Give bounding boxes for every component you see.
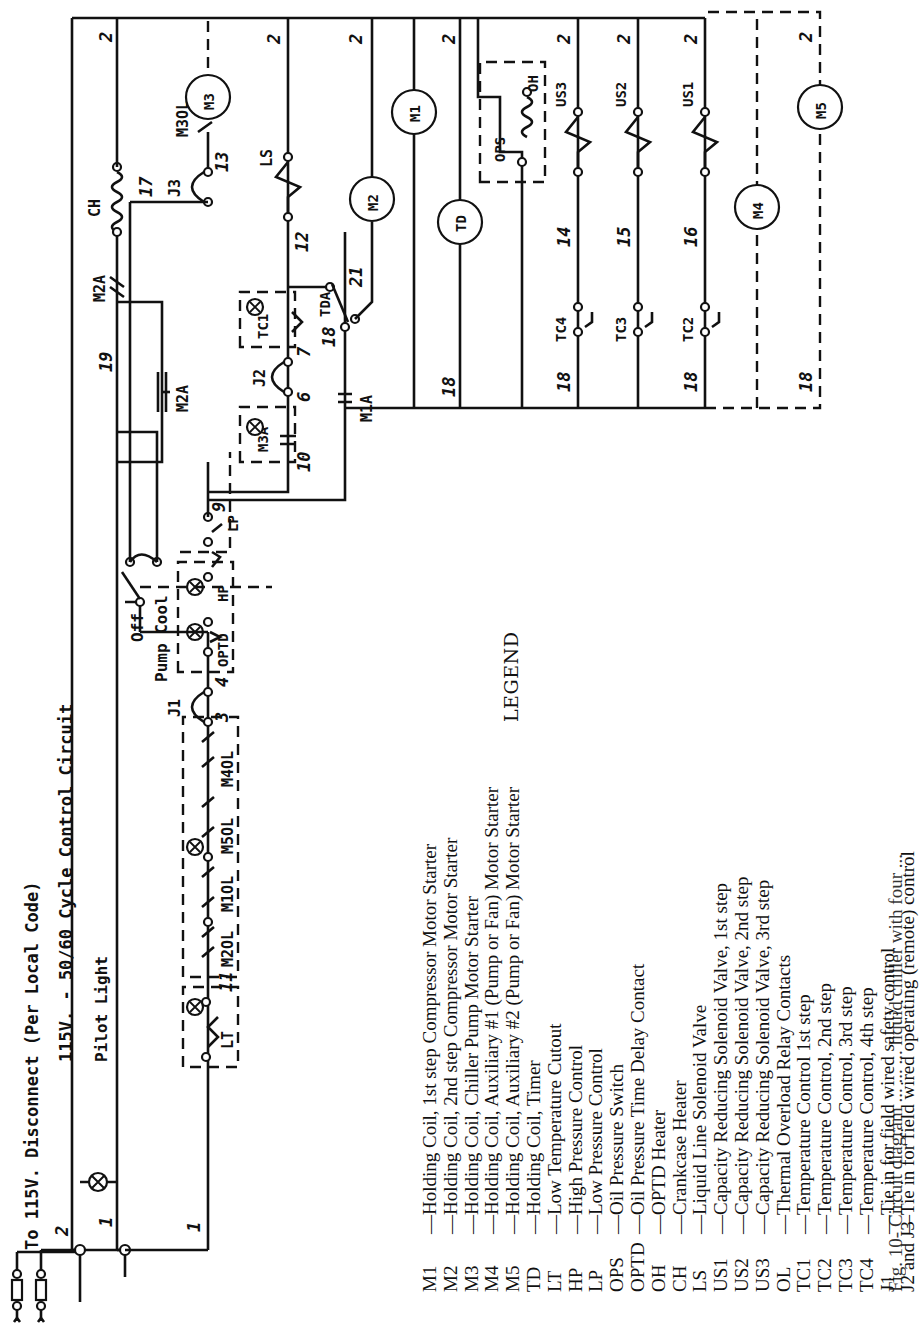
wire-number: 2 — [346, 34, 366, 45]
label-TDA: TDA — [317, 291, 333, 317]
legend-code: TC2 — [815, 1234, 836, 1292]
legend-item: LT—Low Temperature Cutout — [545, 592, 566, 1292]
wire-number: 16 — [681, 227, 701, 247]
label-M5: M5 — [813, 102, 829, 119]
label-LP: LP — [225, 515, 241, 532]
legend-description: —Temperature Control, 4th step — [857, 987, 878, 1234]
label-M2: M2 — [365, 194, 381, 211]
wire-number: 2 — [96, 32, 116, 43]
legend-code: OPS — [607, 1234, 628, 1292]
wire-number: 1 — [96, 1217, 116, 1227]
wire-number: 17 — [136, 176, 156, 197]
legend-description: —Temperature Control 1st step — [794, 994, 815, 1234]
label-J1: J1 — [166, 699, 184, 717]
legend-code: HP — [566, 1234, 587, 1292]
legend-description: —Holding Coil, 2nd step Compressor Motor… — [441, 838, 462, 1234]
label-OH: OH — [525, 75, 541, 92]
wire-number: 2 — [796, 32, 816, 43]
label-M2OL: M2OL — [219, 931, 237, 967]
legend-code: LS — [690, 1234, 711, 1292]
legend-item: US2—Capacity Reducing Solenoid Valve, 2n… — [732, 592, 753, 1292]
legend-description: —Holding Coil, Chiller Pump Motor Starte… — [462, 896, 483, 1234]
wire-number: 14 — [554, 227, 574, 247]
legend-description: —Holding Coil, Auxiliary #1 (Pump or Fan… — [482, 787, 503, 1234]
legend-code: US1 — [711, 1234, 732, 1292]
legend-description: —Liquid Line Solenoid Valve — [690, 1005, 711, 1234]
wire-number: 15 — [614, 227, 634, 247]
label-M3: M3 — [201, 93, 217, 110]
wire-number: 7 — [294, 346, 314, 357]
jumper-J3 — [192, 168, 212, 206]
wire-number: 18 — [319, 327, 339, 347]
legend-description: —Crankcase Heater — [670, 1080, 691, 1234]
legend-description: —Capacity Reducing Solenoid Valve, 2nd s… — [732, 877, 753, 1234]
legend-item: OPS—Oil Pressure Switch — [607, 592, 628, 1292]
wire-number: 13 — [212, 152, 232, 172]
label-M2A-top: M2A — [91, 275, 109, 302]
legend-item: M2—Holding Coil, 2nd step Compressor Mot… — [441, 592, 462, 1292]
label-CH: CH — [86, 199, 104, 217]
legend-item: OH—OPTD Heater — [649, 592, 670, 1292]
legend-item: M5—Holding Coil, Auxiliary #2 (Pump or F… — [503, 592, 524, 1292]
wire-number: 3 — [212, 712, 232, 723]
legend-item: CH—Crankcase Heater — [670, 592, 691, 1292]
legend-item: M4—Holding Coil, Auxiliary #1 (Pump or F… — [482, 592, 503, 1292]
M2A-branch — [117, 302, 162, 462]
wire-number: 2 — [554, 34, 574, 45]
legend-description: —Capacity Reducing Solenoid Valve, 3rd s… — [753, 880, 774, 1234]
legend-code: M5 — [503, 1234, 524, 1292]
terminal-2 — [75, 1245, 85, 1255]
legend-item: LP—Low Pressure Control — [586, 592, 607, 1292]
label-US1: US1 — [680, 82, 696, 107]
wire-9 — [208, 232, 345, 500]
wire-number: 1 — [184, 1222, 204, 1232]
label-M1OL: M1OL — [219, 876, 237, 912]
wire-number: 2 — [439, 34, 459, 45]
legend-code: US2 — [732, 1234, 753, 1292]
label-M1: M1 — [407, 105, 423, 122]
legend-description: —Low Pressure Control — [586, 1048, 607, 1234]
legend-item: TC2—Temperature Control, 2nd step — [815, 592, 836, 1292]
label-US2: US2 — [613, 82, 629, 107]
label-J2: J2 — [251, 369, 269, 387]
legend-code: TD — [524, 1234, 545, 1292]
wire-number: 19 — [96, 352, 116, 372]
label-TC1: TC1 — [255, 314, 271, 339]
wire-number: 2 — [52, 1226, 72, 1237]
caption-partial: Fig. 10- Circuit diagram ... ... ... liq… — [885, 854, 907, 1292]
legend-item: OL—Thermal Overload Relay Contacts — [774, 592, 795, 1292]
legend-description: —Holding Coil, Auxiliary #2 (Pump or Fan… — [503, 787, 524, 1234]
wire-number: 18 — [796, 372, 816, 392]
legend-item: M1—Holding Coil, 1st step Compressor Mot… — [420, 592, 441, 1292]
legend-item: TD—Holding Coil, Timer — [524, 592, 545, 1292]
wire-number: 21 — [346, 267, 366, 288]
legend-description: —Oil Pressure Time Delay Contact — [628, 964, 649, 1234]
legend-code: OH — [649, 1234, 670, 1292]
legend-code: OPTD — [628, 1234, 649, 1292]
label-M4: M4 — [750, 202, 766, 219]
wire-number: 4 — [212, 677, 232, 687]
legend-description: —High Pressure Control — [566, 1045, 587, 1234]
legend-item: TC4—Temperature Control, 4th step — [857, 592, 878, 1292]
legend-code: TC4 — [857, 1234, 878, 1292]
wire-number: 2 — [681, 34, 701, 45]
label-M5OL: M5OL — [219, 818, 237, 854]
wire-number: 6 — [294, 392, 314, 402]
label-US3: US3 — [553, 82, 569, 107]
legend-description: —OPTD Heater — [649, 1110, 670, 1234]
legend-code: LP — [586, 1234, 607, 1292]
legend-code: M4 — [482, 1234, 503, 1292]
label-J3: J3 — [166, 179, 184, 197]
legend-code: TC3 — [836, 1234, 857, 1292]
wire-number: 18 — [681, 372, 701, 392]
legend-description: —Low Temperature Cutout — [545, 1024, 566, 1234]
legend-item: M3—Holding Coil, Chiller Pump Motor Star… — [462, 592, 483, 1292]
legend-code: M3 — [462, 1234, 483, 1292]
label-LT: LT — [219, 1031, 237, 1049]
legend-description: —Thermal Overload Relay Contacts — [774, 955, 795, 1234]
legend-code: TC1 — [794, 1234, 815, 1292]
legend-code: CH — [670, 1234, 691, 1292]
legend-description: —Temperature Control, 3rd step — [836, 986, 857, 1234]
label-LS: LS — [258, 149, 276, 167]
